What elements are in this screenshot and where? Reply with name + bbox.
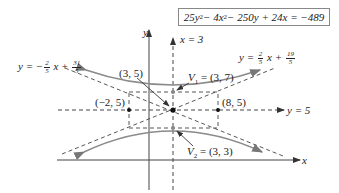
center-label: (3, 5) bbox=[119, 68, 143, 79]
x-equals-3-label: x = 3 bbox=[180, 34, 203, 45]
eq-term-b: − 4x bbox=[203, 11, 224, 23]
v2-pointer-arrow bbox=[177, 131, 193, 146]
eq-term-a: 25y bbox=[184, 11, 200, 23]
denominator: 5 bbox=[289, 59, 293, 66]
denominator: 5 bbox=[45, 68, 49, 75]
eq-mid: x + bbox=[51, 60, 72, 72]
fraction: 25 bbox=[258, 51, 264, 66]
eq-term-c: − 250y + 24x = −489 bbox=[227, 11, 324, 23]
v2-name: V bbox=[187, 145, 194, 157]
y-equals-5-label: y = 5 bbox=[287, 105, 310, 116]
hyperbola-graph bbox=[0, 0, 339, 193]
vertex-v2 bbox=[171, 126, 175, 130]
equation-box: 25y2 − 4x2 − 250y + 24x = −489 bbox=[178, 8, 330, 26]
asymptote-positive bbox=[62, 68, 275, 154]
vertex-v1 bbox=[171, 90, 175, 94]
left-point-label: (−2, 5) bbox=[95, 97, 125, 108]
asymptote-positive-label: y = 25 x + 195 bbox=[239, 51, 296, 66]
fraction: 315 bbox=[72, 60, 81, 75]
y-axis-label: y bbox=[143, 27, 148, 38]
eq-mid: x + bbox=[264, 51, 285, 63]
right-point-label: (8, 5) bbox=[222, 97, 246, 108]
fraction: 195 bbox=[286, 51, 295, 66]
center-point bbox=[170, 107, 175, 112]
denominator: 5 bbox=[75, 68, 79, 75]
denominator: 5 bbox=[259, 59, 263, 66]
asymptote-negative-label: y = −25 x + 315 bbox=[18, 60, 82, 75]
v2-value: = (3, 3) bbox=[197, 145, 233, 157]
v1-value: = (3, 7) bbox=[198, 71, 234, 83]
eq-prefix: y = bbox=[239, 51, 257, 63]
vertex-v1-label: V1 = (3, 7) bbox=[188, 72, 234, 86]
v1-name: V bbox=[188, 71, 195, 83]
fraction: 25 bbox=[44, 60, 50, 75]
vertex-v2-label: V2 = (3, 3) bbox=[187, 146, 233, 160]
x-axis-label: x bbox=[302, 155, 307, 166]
eq-prefix: y = − bbox=[18, 60, 43, 72]
right-point bbox=[216, 108, 220, 112]
left-point bbox=[127, 108, 131, 112]
